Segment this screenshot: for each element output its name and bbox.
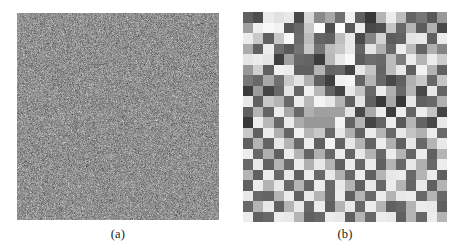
panel-a-noise-image <box>17 13 219 220</box>
panel-b-block-noise-image <box>243 12 447 222</box>
figure-container: (a) (b) <box>0 0 461 252</box>
block-noise-canvas <box>243 12 447 222</box>
caption-panel-a: (a) <box>17 227 219 241</box>
caption-panel-b: (b) <box>243 227 447 241</box>
fine-noise-canvas <box>17 13 219 220</box>
